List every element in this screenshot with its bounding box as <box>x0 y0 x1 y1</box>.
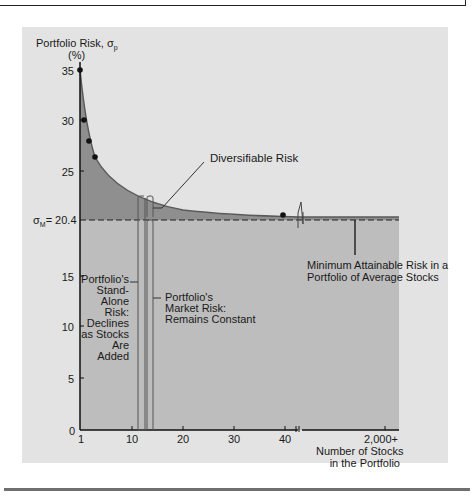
sigma-m-label: σM= 20.4 <box>33 214 77 231</box>
standalone-risk-label: Portfolio's Stand- Alone Risk: Declines … <box>78 274 129 362</box>
minimum-risk-label-line2: Portfolio of Average Stocks <box>307 271 439 283</box>
x-axis-title-line2: in the Portfolio <box>316 457 400 469</box>
data-point-2 <box>81 117 87 123</box>
y-tick-30: 30 <box>44 115 74 127</box>
x-tick-20: 20 <box>163 433 203 445</box>
y-axis-unit: (%) <box>68 49 85 61</box>
sigma-m-value: = 20.4 <box>46 214 77 226</box>
diversifiable-risk-label: Diversifiable Risk <box>210 152 298 164</box>
y-tick-5: 5 <box>44 373 74 385</box>
y-tick-15: 15 <box>44 271 74 283</box>
sigma-symbol: σ <box>33 214 40 226</box>
y-tick-25: 25 <box>44 166 74 178</box>
data-point-40 <box>280 212 286 218</box>
x-tick-1: 1 <box>78 433 84 445</box>
x-tick-40: 40 <box>265 433 305 445</box>
y-axis-title-text: Portfolio Risk, σ <box>36 37 114 49</box>
x-tick-2000: 2,000+ <box>364 433 398 445</box>
data-point-4 <box>92 154 98 160</box>
market-line: Remains Constant <box>165 314 256 325</box>
minimum-risk-label-line1: Minimum Attainable Risk in a <box>307 259 448 271</box>
diversifiable-leader-line <box>153 162 204 208</box>
market-risk-label: Portfolio's Market Risk: Remains Constan… <box>165 292 256 325</box>
data-point-3 <box>86 138 92 144</box>
x-axis-title-line1: Number of Stocks <box>316 445 400 457</box>
x-tick-10: 10 <box>112 433 152 445</box>
y-tick-10: 10 <box>44 321 74 333</box>
x-tick-30: 30 <box>214 433 254 445</box>
y-tick-0: 0 <box>69 425 75 437</box>
y-tick-35: 35 <box>44 65 74 77</box>
diversifiable-risk-area <box>80 70 399 220</box>
data-point-1 <box>77 67 83 73</box>
standalone-line: Are Added <box>78 340 129 362</box>
y-axis-title-sub: p <box>114 44 118 51</box>
